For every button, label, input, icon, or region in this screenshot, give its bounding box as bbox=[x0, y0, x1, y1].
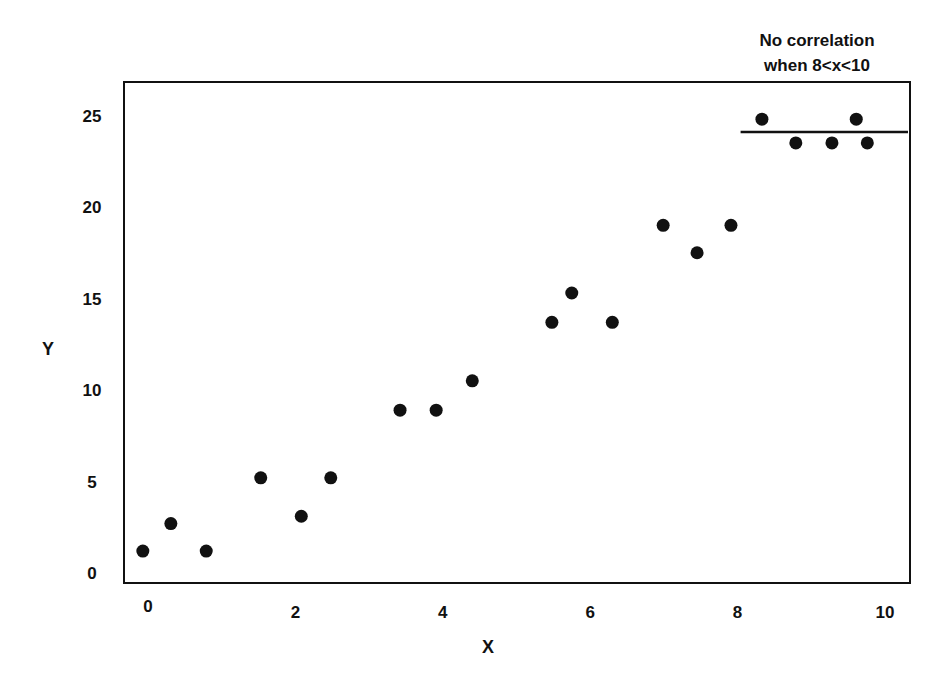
data-point bbox=[691, 246, 704, 259]
x-tick-label: 6 bbox=[585, 603, 594, 622]
annotation-line-2: when 8<x<10 bbox=[763, 56, 870, 75]
y-axis-label: Y bbox=[42, 339, 54, 359]
data-point bbox=[657, 219, 670, 232]
data-point bbox=[200, 545, 213, 558]
y-tick-label: 0 bbox=[87, 564, 96, 583]
data-point bbox=[466, 374, 479, 387]
x-tick-label: 2 bbox=[291, 603, 300, 622]
data-points bbox=[136, 113, 873, 558]
x-axis-ticks: 0246810 bbox=[143, 597, 894, 622]
y-tick-label: 10 bbox=[83, 381, 102, 400]
x-tick-label: 10 bbox=[876, 603, 895, 622]
x-tick-label: 4 bbox=[438, 603, 448, 622]
annotation: No correlation when 8<x<10 bbox=[759, 31, 874, 75]
y-axis-ticks: 0510152025 bbox=[83, 107, 102, 584]
x-tick-label: 8 bbox=[733, 603, 742, 622]
annotation-line-1: No correlation bbox=[759, 31, 874, 50]
data-point bbox=[254, 471, 267, 484]
data-point bbox=[825, 136, 838, 149]
data-point bbox=[724, 219, 737, 232]
x-axis-label: X bbox=[482, 637, 494, 657]
data-point bbox=[789, 136, 802, 149]
data-point bbox=[606, 316, 619, 329]
data-point bbox=[545, 316, 558, 329]
plot-frame bbox=[124, 82, 910, 583]
data-point bbox=[394, 404, 407, 417]
data-point bbox=[324, 471, 337, 484]
data-point bbox=[430, 404, 443, 417]
data-point bbox=[850, 113, 863, 126]
x-tick-label: 0 bbox=[143, 597, 152, 616]
y-tick-label: 20 bbox=[83, 198, 102, 217]
scatter-chart: No correlation when 8<x<10 0510152025 02… bbox=[0, 0, 947, 685]
data-point bbox=[295, 510, 308, 523]
y-tick-label: 25 bbox=[83, 107, 102, 126]
data-point bbox=[136, 545, 149, 558]
y-tick-label: 5 bbox=[87, 473, 96, 492]
data-point bbox=[861, 136, 874, 149]
data-point bbox=[164, 517, 177, 530]
y-tick-label: 15 bbox=[83, 290, 102, 309]
data-point bbox=[755, 113, 768, 126]
data-point bbox=[565, 287, 578, 300]
